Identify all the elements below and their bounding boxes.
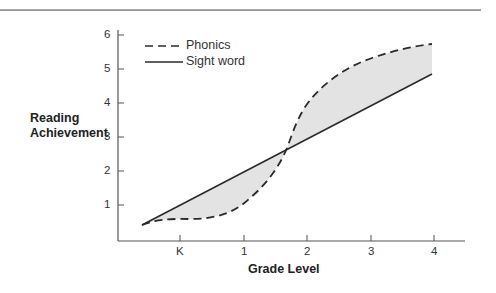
- x-tick-1: 1: [241, 245, 247, 257]
- y-tick-4: 4: [104, 96, 110, 108]
- x-ticks: [180, 235, 434, 241]
- x-axis-label: Grade Level: [248, 262, 320, 276]
- y-tick-5: 5: [104, 62, 110, 74]
- y-ticks: [118, 35, 124, 205]
- y-tick-3: 3: [104, 130, 110, 142]
- y-axis-label-line2: Achievement: [30, 126, 108, 141]
- y-axis-label-line1: Reading: [30, 111, 108, 126]
- shaded-area: [142, 44, 432, 225]
- x-tick-2: 2: [304, 245, 310, 257]
- x-tick-k: K: [176, 245, 184, 257]
- legend-sight-label: Sight word: [186, 54, 245, 68]
- legend-phonics-label: Phonics: [186, 38, 230, 52]
- chart-canvas: [0, 0, 496, 293]
- x-tick-4: 4: [431, 245, 437, 257]
- y-tick-1: 1: [104, 198, 110, 210]
- y-tick-6: 6: [104, 28, 110, 40]
- y-tick-2: 2: [104, 164, 110, 176]
- x-tick-3: 3: [368, 245, 374, 257]
- y-axis-label: Reading Achievement: [30, 111, 108, 141]
